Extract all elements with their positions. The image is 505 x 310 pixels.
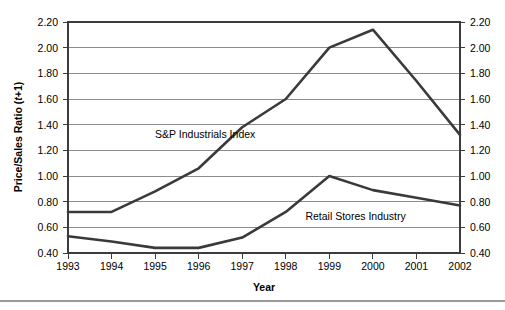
xtick-label-1994: 1994 — [100, 260, 124, 272]
left-ytick-label-1.20: 1.20 — [38, 144, 59, 156]
xtick-label-1998: 1998 — [274, 260, 298, 272]
xtick-label-2002: 2002 — [448, 260, 472, 272]
left-ytick-label-1.00: 1.00 — [38, 170, 59, 182]
left-y-tick-labels: 2.20 2.00 1.80 1.60 1.40 1.20 1.00 0.80 … — [38, 16, 59, 259]
left-ytick-label-2.20: 2.20 — [38, 16, 59, 28]
xtick-label-2001: 2001 — [405, 260, 429, 272]
right-ytick-label-1.40: 1.40 — [470, 119, 491, 131]
right-ytick-label-1.60: 1.60 — [470, 93, 491, 105]
chart-figure: 2.20 2.00 1.80 1.60 1.40 1.20 1.00 0.80 … — [0, 0, 505, 310]
left-ytick-label-1.60: 1.60 — [38, 93, 59, 105]
left-y-tickmarks — [63, 22, 68, 253]
series-annotation-retail-stores-industry: Retail Stores Industry — [305, 210, 406, 222]
right-ytick-label-1.80: 1.80 — [470, 67, 491, 79]
x-axis-title: Year — [253, 281, 275, 293]
left-ytick-label-0.40: 0.40 — [38, 247, 59, 259]
right-ytick-label-0.40: 0.40 — [470, 247, 491, 259]
y-axis-title: Price/Sales Ratio (t+1) — [12, 82, 24, 193]
series-annotation-sp-industrials-index: S&P Industrials Index — [155, 128, 256, 140]
price-sales-ratio-line-chart: 2.20 2.00 1.80 1.60 1.40 1.20 1.00 0.80 … — [0, 0, 505, 310]
xtick-label-1993: 1993 — [56, 260, 80, 272]
xtick-label-2000: 2000 — [361, 260, 385, 272]
right-ytick-label-1.00: 1.00 — [470, 170, 491, 182]
xtick-label-1995: 1995 — [143, 260, 167, 272]
y-axis-title-suffix: +1) — [12, 82, 24, 97]
right-ytick-label-0.60: 0.60 — [470, 221, 491, 233]
left-ytick-label-0.60: 0.60 — [38, 221, 59, 233]
y-axis-title-prefix: Price/Sales Ratio ( — [12, 100, 24, 192]
right-ytick-label-2.20: 2.20 — [470, 16, 491, 28]
right-y-tickmarks — [460, 22, 465, 253]
x-tick-labels: 1993 1994 1995 1996 1997 1998 1999 2000 … — [56, 260, 472, 272]
left-ytick-label-1.80: 1.80 — [38, 67, 59, 79]
left-ytick-label-1.40: 1.40 — [38, 119, 59, 131]
left-ytick-label-2.00: 2.00 — [38, 42, 59, 54]
xtick-label-1997: 1997 — [231, 260, 255, 272]
right-ytick-label-2.00: 2.00 — [470, 42, 491, 54]
right-ytick-label-0.80: 0.80 — [470, 196, 491, 208]
left-ytick-label-0.80: 0.80 — [38, 196, 59, 208]
xtick-label-1996: 1996 — [187, 260, 211, 272]
xtick-label-1999: 1999 — [318, 260, 342, 272]
right-ytick-label-1.20: 1.20 — [470, 144, 491, 156]
x-tickmarks — [68, 253, 416, 259]
right-y-tick-labels: 2.20 2.00 1.80 1.60 1.40 1.20 1.00 0.80 … — [470, 16, 491, 259]
